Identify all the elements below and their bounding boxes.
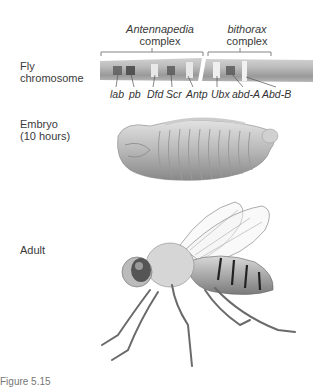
embryo-label: Embryo (10 hours) (20, 118, 70, 142)
label-line: (10 hours) (20, 130, 70, 142)
adult-fly-illustration (102, 202, 295, 366)
band-lab (113, 66, 122, 75)
embryo-body (118, 119, 279, 180)
band-ubx (213, 62, 220, 78)
band-abd-a (226, 66, 235, 75)
band-antp (186, 62, 193, 78)
band-pb (126, 66, 135, 75)
bithorax-bracket (208, 52, 271, 56)
adult-label: Adult (20, 244, 45, 256)
band-scr (167, 66, 175, 75)
label-line: Embryo (20, 118, 70, 130)
chromosome-diagram (0, 0, 318, 100)
antennapedia-bracket (101, 52, 203, 56)
band-abd-b (242, 61, 247, 81)
band-dfd (151, 64, 158, 77)
figure-caption: Figure 5.15 (0, 376, 51, 387)
